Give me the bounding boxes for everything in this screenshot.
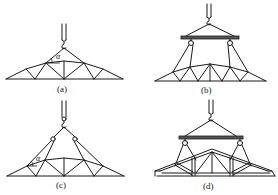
timber-truss <box>155 149 275 176</box>
crane-hook-icon <box>209 100 213 121</box>
pulley-icon <box>51 137 77 141</box>
panel-label-d: (d) <box>203 181 214 191</box>
panel-c: α (c) <box>7 101 124 190</box>
steel-truss <box>6 61 123 79</box>
steel-truss <box>7 158 124 176</box>
sling-lines <box>175 145 251 166</box>
crane-hook-icon <box>207 4 211 25</box>
panel-label-b: (b) <box>201 85 212 95</box>
panel-d: (d) <box>155 100 275 191</box>
pulley-icon <box>189 39 233 46</box>
crane-hook-icon <box>62 24 66 49</box>
panel-a: α (a) <box>6 24 123 94</box>
spreader-bar <box>179 136 243 139</box>
steel-truss <box>155 64 266 81</box>
panel-b: (b) <box>155 4 266 95</box>
spreader-bar <box>181 36 239 39</box>
panel-label-a: (a) <box>57 84 67 94</box>
alpha-label: α <box>56 52 61 61</box>
truss-hoisting-diagram: α (a) <box>0 0 278 195</box>
pulley-icon <box>183 139 243 146</box>
crane-hook-icon <box>62 101 66 128</box>
panel-label-c: (c) <box>56 180 66 190</box>
